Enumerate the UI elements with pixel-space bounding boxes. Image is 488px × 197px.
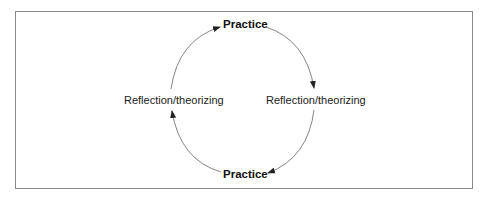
arrow-left-to-top [171,27,220,89]
node-practice-top: Practice [223,18,268,30]
node-reflection-left: Reflection/theorizing [124,94,224,106]
node-reflection-right: Reflection/theorizing [266,94,366,106]
arrow-bottom-to-left [172,111,221,172]
arrow-top-to-right [266,27,314,88]
arrow-right-to-bottom [268,110,314,173]
node-practice-bottom: Practice [223,168,268,180]
